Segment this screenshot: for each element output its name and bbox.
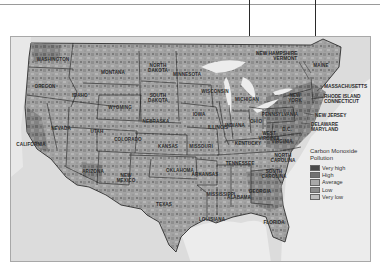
callout-de-md: DELAWARE MARYLAND (311, 122, 338, 133)
legend-swatch (310, 187, 320, 193)
state-label-wisconsin: WISCONSIN (201, 89, 228, 94)
state-label-north-carolina: NORTH CAROLINA (270, 153, 295, 163)
legend-title: Carbon Monoxide Pollution (310, 148, 370, 162)
state-label-maine: MAINE (313, 63, 328, 68)
state-label-north-dakota: NORTH DAKOTA (148, 63, 168, 73)
state-label-michigan: MICHIGAN (235, 97, 259, 102)
state-label-oklahoma: OKLAHOMA (166, 168, 194, 173)
state-label-kansas: KANSAS (158, 144, 178, 149)
state-label-utah: UTAH (91, 129, 104, 134)
state-label-wyoming: WYOMING (108, 105, 132, 110)
state-label-california: CALIFORNIA (16, 142, 45, 147)
legend-label: Average (322, 179, 343, 185)
state-label-georgia: GEORGIA (249, 189, 271, 194)
legend-swatch (310, 194, 320, 200)
legend-swatch (310, 165, 320, 171)
legend-item-average: Average (310, 179, 370, 186)
state-label-new-york: NEW YORK (288, 93, 302, 103)
state-label-nevada: NEVADA (51, 126, 71, 131)
legend-label: Very high (322, 165, 345, 171)
state-label-washington: WASHINGTON (37, 57, 70, 62)
legend-label: Very low (322, 194, 343, 200)
state-label-oregon: OREGON (34, 84, 55, 89)
state-label-kentucky: KENTUCKY (235, 141, 261, 146)
state-label-d-c: D.C. (282, 127, 292, 132)
state-label-ohio: OHIO (250, 119, 262, 124)
state-label-alabama: ALABAMA (227, 195, 251, 200)
top-rule (0, 4, 380, 5)
state-label-iowa: IOWA (193, 112, 206, 117)
state-label-arizona: ARIZONA (82, 169, 104, 174)
state-label-idaho: IDAHO (72, 93, 87, 98)
state-label-south-dakota: SOUTH DAKOTA (148, 93, 168, 103)
legend-item-very-high: Very high (310, 164, 370, 171)
gulf-of-mexico (181, 221, 271, 262)
state-label-louisiana: LOUISIANA (199, 217, 225, 222)
callout-new-jersey: NEW JERSEY (315, 113, 346, 118)
state-label-nebraska: NEBRASKA (143, 119, 170, 124)
state-label-pennsylvania: PENNSYLVANIA (262, 112, 299, 117)
legend-label: High (322, 172, 334, 178)
map-frame: WASHINGTONOREGONIDAHOMONTANAWYOMINGNORTH… (10, 36, 371, 262)
legend: Carbon Monoxide Pollution Very high High… (310, 148, 370, 201)
state-label-new-mexico: NEW MEXICO (117, 173, 136, 183)
state-label-colorado: COLORADO (114, 137, 142, 142)
state-label-arkansas: ARKANSAS (192, 172, 219, 177)
state-label-tennessee: TENNESSEE (226, 161, 255, 166)
state-label-west-virginia: WEST VIRGINIA (258, 131, 279, 141)
callout-nh-vt: NEW HAMPSHIRE VERMONT (256, 51, 297, 62)
state-label-texas: TEXAS (156, 202, 172, 207)
legend-item-high: High (310, 171, 370, 178)
legend-item-very-low: Very low (310, 194, 370, 201)
state-label-missouri: MISSOURI (189, 144, 213, 149)
legend-label: Low (322, 187, 332, 193)
state-label-florida: FLORIDA (263, 220, 284, 225)
state-label-indiana: INDIANA (225, 123, 245, 128)
callout-massachusetts: MASSACHUSETTS (324, 84, 367, 89)
legend-swatch (310, 179, 320, 185)
legend-item-low: Low (310, 186, 370, 193)
callout-ri-ct: RHODE ISLAND CONNECTICUT (324, 94, 361, 105)
state-label-south-carolina: SOUTH CAROLINA (261, 169, 286, 179)
legend-swatch (310, 172, 320, 178)
state-label-montana: MONTANA (101, 70, 125, 75)
state-label-minnesota: MINNESOTA (173, 72, 201, 77)
